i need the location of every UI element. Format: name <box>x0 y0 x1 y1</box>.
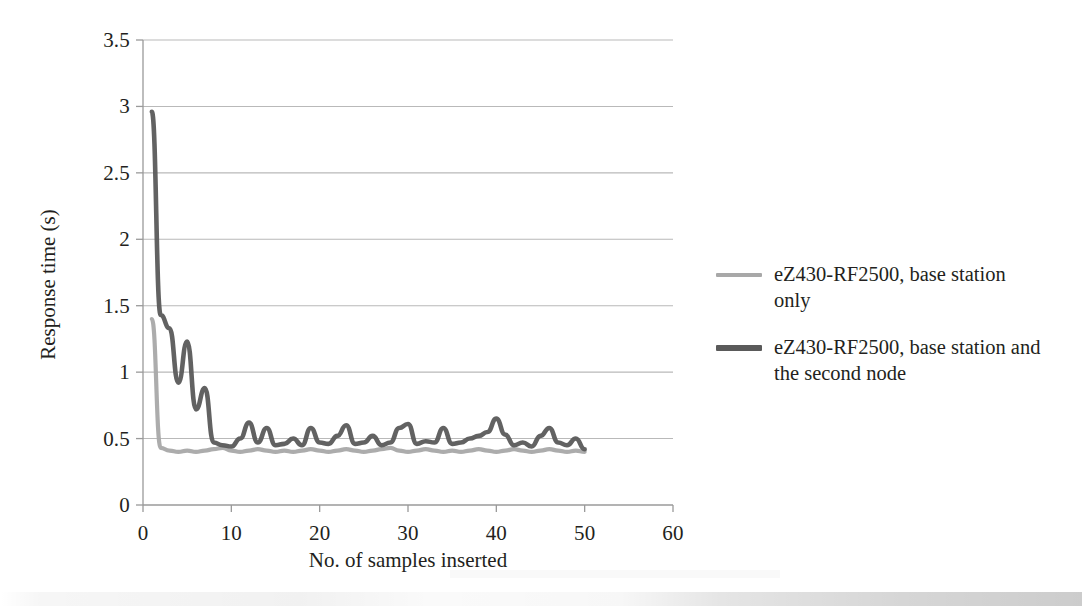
y-tick-label: 2.5 <box>60 160 130 185</box>
x-tick-label: 0 <box>138 521 149 546</box>
x-tick-label: 10 <box>221 521 242 546</box>
scan-artifact-lower <box>0 592 1082 606</box>
figure-container: 3.532.521.510.50 0102030405060 Response … <box>0 0 1082 606</box>
x-tick-label: 20 <box>309 521 330 546</box>
chart-plot-area: 3.532.521.510.50 0102030405060 Response … <box>0 0 700 580</box>
axis-lines <box>143 40 673 505</box>
chart-legend: eZ430-RF2500, base station onlyeZ430-RF2… <box>716 262 1066 409</box>
legend-item[interactable]: eZ430-RF2500, base station only <box>716 262 1066 313</box>
y-tick-label: 1.5 <box>60 293 130 318</box>
y-tick-label: 0 <box>60 493 130 518</box>
y-tick-label: 3.5 <box>60 28 130 53</box>
series-line-2 <box>152 112 585 449</box>
legend-label: eZ430-RF2500, base station and the secon… <box>774 335 1044 386</box>
legend-color-swatch <box>716 345 762 351</box>
y-tick-label: 2 <box>60 227 130 252</box>
data-series <box>152 112 585 452</box>
legend-item[interactable]: eZ430-RF2500, base station and the secon… <box>716 335 1066 386</box>
y-tick-label: 3 <box>60 94 130 119</box>
x-tick-label: 30 <box>397 521 418 546</box>
series-line-1 <box>152 319 585 452</box>
x-tick-label: 60 <box>662 521 683 546</box>
legend-label: eZ430-RF2500, base station only <box>774 262 1044 313</box>
x-tick-label: 50 <box>574 521 595 546</box>
y-tick-label: 1 <box>60 360 130 385</box>
gridlines <box>143 40 673 439</box>
y-tick-label: 0.5 <box>60 426 130 451</box>
x-tick-label: 40 <box>486 521 507 546</box>
y-axis-title: Response time (s) <box>36 175 61 395</box>
x-axis-title: No. of samples inserted <box>143 548 673 573</box>
legend-color-swatch <box>716 273 762 277</box>
